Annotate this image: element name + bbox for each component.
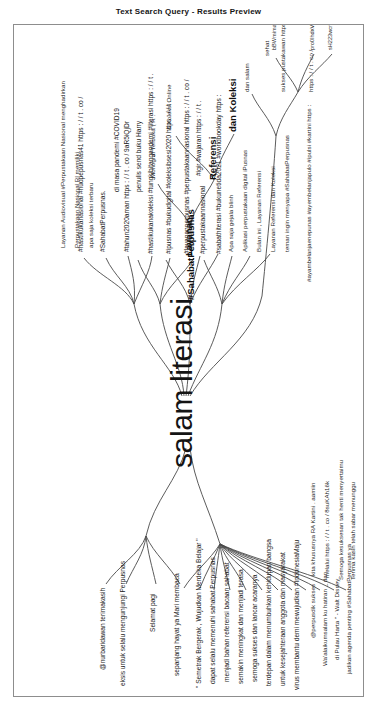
list-item[interactable]: apa saja koleksi terbaru (88, 183, 95, 248)
list-item[interactable]: menjadi bahan referensi bacaan sahabat (224, 562, 231, 682)
list-item[interactable]: teman ingin menyapa #SahabatPerpusnas (284, 135, 291, 252)
branch-label-referensi[interactable]: Referensi (208, 137, 218, 180)
preview-canvas[interactable]: salam literasi #SahabatPerpusnas #hastik… (13, 24, 364, 697)
mind-map: salam literasi #SahabatPerpusnas #hastik… (14, 25, 363, 696)
list-item[interactable]: #SahabatPerpusnas. (100, 190, 107, 252)
list-item[interactable]: Layanan Referensi dan Koleksi (270, 166, 277, 252)
branch-label-koleksi[interactable]: dan Koleksi (228, 79, 238, 132)
list-item[interactable]: @nurbaridawan terimakasih (100, 588, 107, 670)
branch-label-layanan[interactable]: Layanan (184, 217, 194, 256)
list-item[interactable]: https : / / t . co / (308, 50, 315, 92)
list-item[interactable]: sepanjang hayat ya Mari membaca (174, 573, 181, 676)
window-title-bar: Text Search Query - Results Preview (0, 0, 377, 22)
list-item[interactable]: semakin meningkat dan menjadi terasa (238, 569, 245, 684)
root-node[interactable]: salam literasi (166, 299, 198, 468)
list-item[interactable]: & Koleksi Online (166, 85, 173, 130)
list-item[interactable]: eksis untuk selalu mengunjungi Perpusnas (120, 561, 127, 686)
results-preview-window: Text Search Query - Results Preview (0, 0, 377, 709)
list-item[interactable]: Monograf Terbuka ( R . (150, 115, 157, 178)
list-item[interactable]: #tahun2020aman https : / / t . co / 9aR5… (124, 121, 131, 252)
list-item[interactable]: kita khususnya RA Kartini . aamiin (310, 482, 317, 576)
list-item[interactable]: Layanan Audiovisual #Perpustakaan Nasion… (60, 81, 67, 248)
list-item[interactable]: #perpustakaannasional (200, 186, 207, 254)
list-item[interactable]: #igir #wajaran https : / / t . (196, 101, 203, 177)
list-item[interactable]: dapat selalu memenuhi sahabat Perpusnas (210, 557, 217, 684)
list-item[interactable]: bBWmimax (272, 24, 278, 50)
list-item[interactable]: terdepan dalam menumbuhkan kehidupan ban… (266, 539, 273, 686)
list-item[interactable]: @perpusdik sukses (310, 584, 317, 638)
list-item[interactable]: dan salam (244, 63, 251, 92)
list-item[interactable]: pro0lhdxVa (310, 24, 316, 50)
list-item[interactable]: Terima kasih telah sabar menunggu (350, 482, 357, 580)
list-item[interactable]: Selamat pagi (150, 594, 157, 633)
list-item[interactable]: sehat (264, 41, 271, 56)
list-item[interactable]: melalui https : / / t . co / 8suKAh16k (324, 481, 331, 578)
list-item[interactable]: penulis send buku Harry (136, 121, 143, 192)
list-item[interactable]: Semoga kesuksesan tak henti menyertaimu (338, 460, 345, 580)
list-item[interactable]: Perpustakaan Nasional RI memiliki (74, 152, 81, 248)
list-item[interactable]: Bulan ini , Layanan Referensi (256, 171, 263, 252)
list-item[interactable]: di Pulau Harta " - Walt Disney (334, 579, 341, 660)
list-item[interactable]: Aplikasi perpustakaan digital iPusnas (242, 150, 249, 252)
rotation-stage: salam literasi #SahabatPerpusnas #hastik… (14, 25, 363, 696)
list-item[interactable]: sukses pustakawan https : (280, 24, 287, 92)
list-item[interactable]: di masa pandemi #COVID19 (114, 108, 121, 192)
page-title: Text Search Query - Results Preview (116, 7, 262, 16)
list-item[interactable]: Wa'alaikumsalam ku hatiran _ dan (322, 572, 329, 666)
list-item[interactable]: #ayambelanjaenepunas #ayembelanjapulo #i… (306, 105, 313, 282)
list-item[interactable]: " Semetrak Bergerak , Wujudkan Merdeka B… (196, 538, 203, 688)
list-item[interactable]: untuk kesejahteraan anggota dan masyarak… (280, 552, 287, 686)
list-item[interactable]: virus membantu demi mewujudkan #Indonesi… (294, 540, 301, 690)
list-item[interactable]: Apa saja gejala blinh (228, 195, 235, 252)
list-item[interactable]: sH223wcrY (328, 24, 334, 50)
list-item[interactable]: semoga sukses dan lancar acaranya (252, 575, 259, 682)
